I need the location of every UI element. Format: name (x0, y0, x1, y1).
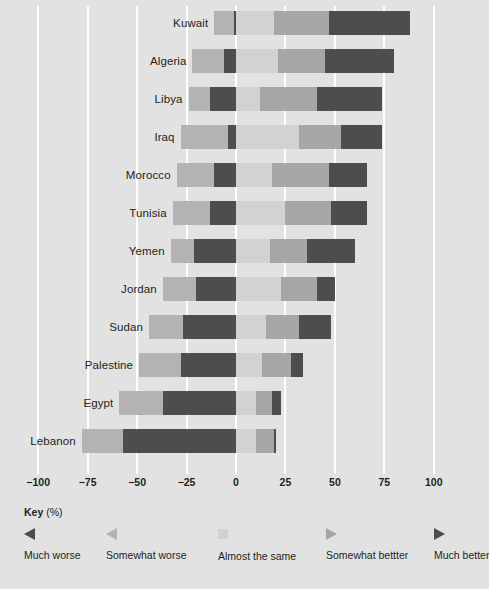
bar-segment-sb (278, 49, 325, 73)
row-label-palestine: Palestine (0, 350, 133, 380)
key-title: Key (%) (24, 506, 464, 518)
bar-segment-ats (236, 239, 270, 263)
key-title-unit: (%) (43, 506, 62, 518)
axis-tick-label--50: −50 (128, 476, 146, 488)
bar-segment-ats (236, 125, 299, 149)
bar-segment-mw (224, 49, 236, 73)
stacked-bar (149, 315, 331, 339)
bar-segment-mb (341, 125, 383, 149)
axis-tick-label--100: −100 (26, 476, 50, 488)
row-label-algeria: Algeria (0, 46, 186, 76)
row-label-lebanon: Lebanon (0, 426, 76, 456)
axis-tick-25 (284, 466, 286, 474)
bar-segment-mw (210, 201, 236, 225)
key-item-label: Somewhat worse (106, 549, 187, 561)
key-item-somewhat-worse[interactable]: Somewhat worse (106, 528, 187, 561)
bar-segment-sw (163, 277, 197, 301)
key-item-label: Almost the same (218, 550, 296, 562)
bar-segment-mb (291, 353, 303, 377)
bar-row: Yemen (0, 236, 485, 266)
bar-segment-sw (181, 125, 228, 149)
bar-row: Morocco (0, 160, 485, 190)
bar-segment-sb (299, 125, 341, 149)
bar-segment-mb (317, 87, 382, 111)
bar-segment-sb (281, 277, 317, 301)
bar-segment-sb (274, 11, 329, 35)
stacked-bar (214, 11, 410, 35)
axis-tick--75 (87, 466, 89, 474)
bar-segment-ats (236, 429, 256, 453)
bar-segment-ats (236, 11, 274, 35)
axis-tick-label-25: 25 (280, 476, 292, 488)
bar-row: Kuwait (0, 8, 485, 38)
row-label-yemen: Yemen (0, 236, 165, 266)
bar-segment-sw (214, 11, 234, 35)
bar-segment-sb (285, 201, 330, 225)
bar-segment-sw (82, 429, 124, 453)
bar-segment-mb (317, 277, 335, 301)
stacked-bar (119, 391, 281, 415)
stacked-bar (163, 277, 335, 301)
bar-segment-mw (194, 239, 236, 263)
bar-segment-sw (139, 353, 181, 377)
key-item-almost-the-same[interactable]: Almost the same (218, 528, 296, 562)
bar-segment-sb (260, 87, 317, 111)
axis-tick-label--75: −75 (79, 476, 97, 488)
axis-tick--100 (37, 466, 39, 474)
row-label-sudan: Sudan (0, 312, 143, 342)
bar-rows: KuwaitAlgeriaLibyaIraqMoroccoTunisiaYeme… (0, 0, 485, 470)
bar-segment-mb (299, 315, 331, 339)
key-item-much-worse[interactable]: Much worse (24, 528, 81, 561)
bar-row: Jordan (0, 274, 485, 304)
bar-row: Iraq (0, 122, 485, 152)
bar-row: Algeria (0, 46, 485, 76)
key-item-somewhat-bettter[interactable]: Somewhat bettter (326, 528, 408, 561)
row-label-morocco: Morocco (0, 160, 171, 190)
bar-segment-ats (236, 87, 260, 111)
bar-segment-sb (256, 429, 274, 453)
key-items: Much worseSomewhat worseAlmost the sameS… (24, 528, 464, 572)
row-label-egypt: Egypt (0, 388, 113, 418)
stacked-bar (181, 125, 383, 149)
bar-segment-mw (228, 125, 236, 149)
bar-row: Sudan (0, 312, 485, 342)
bar-segment-sw (189, 87, 211, 111)
bar-segment-ats (236, 201, 285, 225)
bar-segment-sb (270, 239, 308, 263)
axis-tick-100 (433, 466, 435, 474)
row-label-kuwait: Kuwait (0, 8, 208, 38)
key-item-much-better[interactable]: Much better (434, 528, 489, 561)
axis-tick-label-0: 0 (233, 476, 239, 488)
axis-tick--50 (136, 466, 138, 474)
stacked-bar (189, 87, 383, 111)
axis-tick-label-50: 50 (329, 476, 341, 488)
bar-segment-mw (181, 353, 236, 377)
bar-segment-mw (214, 163, 236, 187)
triangle-right-dark-icon (434, 528, 447, 541)
bar-segment-sw (173, 201, 211, 225)
bar-segment-ats (236, 353, 262, 377)
bar-segment-mb (325, 49, 394, 73)
bar-segment-ats (236, 315, 266, 339)
key-item-label: Somewhat bettter (326, 549, 408, 561)
row-label-tunisia: Tunisia (0, 198, 167, 228)
bar-segment-mb (272, 391, 282, 415)
bar-segment-mw (163, 391, 236, 415)
axis-tick--25 (186, 466, 188, 474)
bar-segment-sb (256, 391, 272, 415)
row-label-jordan: Jordan (0, 274, 157, 304)
bar-row: Tunisia (0, 198, 485, 228)
stacked-bar (173, 201, 367, 225)
bar-segment-sw (149, 315, 183, 339)
axis-tick-label--25: −25 (178, 476, 196, 488)
bar-segment-mb (307, 239, 354, 263)
axis-tick-label-100: 100 (425, 476, 443, 488)
bar-segment-sb (266, 315, 300, 339)
triangle-left-dark-icon (24, 528, 37, 541)
x-axis: −100−75−50−250255075100 (0, 466, 485, 496)
bar-segment-sb (272, 163, 329, 187)
bar-row: Libya (0, 84, 485, 114)
key-title-strong: Key (24, 506, 43, 518)
bar-segment-ats (236, 391, 256, 415)
bar-row: Egypt (0, 388, 485, 418)
